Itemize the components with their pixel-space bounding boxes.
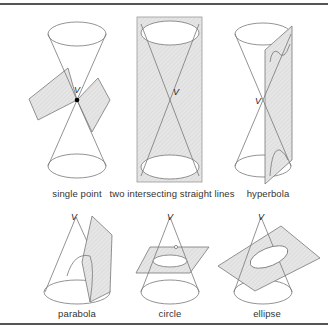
panel-hyperbola [235, 23, 292, 184]
caption-two-lines: two intersecting straight lines [109, 188, 234, 199]
panel-parabola [44, 216, 112, 304]
vertex-label: V [167, 212, 174, 222]
vertex-label: V [173, 87, 180, 97]
vertex-label: V [255, 96, 262, 106]
caption-ellipse: ellipse [253, 308, 281, 319]
conic-sections-diagram: V V V V V [0, 0, 328, 334]
panel-ellipse [218, 217, 320, 304]
vertex-point-icon [75, 98, 80, 103]
vertex-label: V [71, 212, 78, 222]
caption-parabola: parabola [58, 308, 96, 319]
caption-circle: circle [159, 308, 182, 319]
panel-circle [136, 217, 209, 304]
bottom-rule [0, 323, 328, 325]
vertex-label: V [74, 85, 81, 95]
caption-hyperbola: hyperbola [247, 188, 290, 199]
vertex-label: V [258, 212, 265, 222]
panel-two-lines [137, 17, 202, 182]
caption-single-point: single point [52, 188, 101, 199]
panel-single-point [29, 22, 110, 178]
